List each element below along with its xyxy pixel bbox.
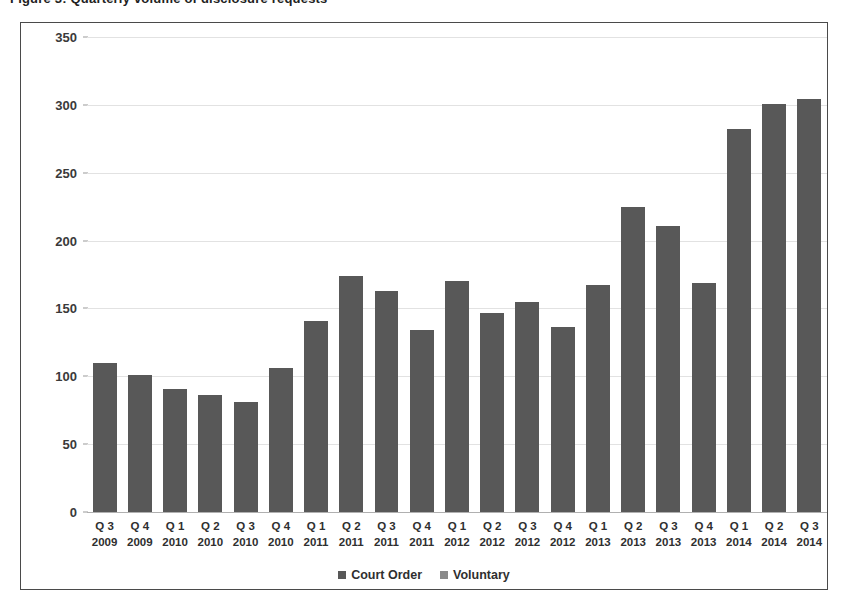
bar[interactable]: [269, 368, 293, 512]
x-axis-year: 2012: [439, 534, 474, 550]
y-axis: 050100150200250300350: [31, 37, 77, 512]
bar-series-group: [87, 37, 827, 512]
x-axis-year: 2011: [334, 534, 369, 550]
x-axis-quarter: Q 3: [651, 518, 686, 534]
x-axis-year: 2013: [580, 534, 615, 550]
bar-slot: [651, 37, 686, 512]
x-axis-year: 2010: [157, 534, 192, 550]
bar[interactable]: [198, 395, 222, 512]
x-axis-quarter: Q 4: [545, 518, 580, 534]
bar-slot: [545, 37, 580, 512]
x-axis-tick-label: Q 22013: [616, 518, 651, 550]
x-axis-tick-label: Q 42013: [686, 518, 721, 550]
x-axis-tick-label: Q 32009: [87, 518, 122, 550]
bar[interactable]: [410, 330, 434, 512]
x-axis-quarter: Q 3: [369, 518, 404, 534]
x-axis-tick-label: Q 12014: [721, 518, 756, 550]
x-axis-year: 2012: [545, 534, 580, 550]
bar-slot: [122, 37, 157, 512]
bar[interactable]: [480, 313, 504, 513]
x-axis-tick-label: Q 22011: [334, 518, 369, 550]
x-axis-tick-label: Q 12013: [580, 518, 615, 550]
bar[interactable]: [234, 402, 258, 512]
x-axis-year: 2010: [193, 534, 228, 550]
legend-label: Voluntary: [453, 568, 510, 582]
bar[interactable]: [128, 375, 152, 512]
bar-slot: [157, 37, 192, 512]
gridline: [87, 512, 827, 513]
bar[interactable]: [375, 291, 399, 512]
x-axis-year: 2013: [616, 534, 651, 550]
bar-slot: [475, 37, 510, 512]
legend-entry[interactable]: Voluntary: [440, 568, 510, 582]
x-axis-quarter: Q 1: [157, 518, 192, 534]
x-axis-year: 2014: [792, 534, 827, 550]
x-axis-tick-label: Q 42011: [404, 518, 439, 550]
bar-slot: [757, 37, 792, 512]
bar-slot: [439, 37, 474, 512]
x-axis-year: 2010: [263, 534, 298, 550]
bar[interactable]: [797, 99, 821, 512]
x-axis-year: 2011: [298, 534, 333, 550]
bar[interactable]: [515, 302, 539, 512]
bar[interactable]: [727, 129, 751, 512]
y-axis-tick-label: 300: [55, 97, 77, 112]
y-axis-tick-label: 100: [55, 369, 77, 384]
x-axis-quarter: Q 1: [580, 518, 615, 534]
bar[interactable]: [586, 285, 610, 512]
y-axis-tick-label: 0: [70, 505, 77, 520]
bar[interactable]: [339, 276, 363, 512]
x-axis-tick-label: Q 12011: [298, 518, 333, 550]
x-axis-quarter: Q 2: [757, 518, 792, 534]
bar[interactable]: [163, 389, 187, 513]
bar-slot: [580, 37, 615, 512]
x-axis-quarter: Q 4: [263, 518, 298, 534]
bar-chart: 050100150200250300350 Q 32009Q 42009Q 12…: [21, 23, 827, 589]
x-axis-quarter: Q 2: [616, 518, 651, 534]
legend-label: Court Order: [351, 568, 422, 582]
cut-off-caption-text: Figure 3: Quarterly volume of disclosure…: [10, 0, 328, 6]
bar[interactable]: [445, 281, 469, 512]
x-axis-tick-label: Q 42012: [545, 518, 580, 550]
x-axis-tick-label: Q 32014: [792, 518, 827, 550]
bar[interactable]: [304, 321, 328, 512]
bar-slot: [298, 37, 333, 512]
x-axis-year: 2012: [475, 534, 510, 550]
x-axis-tick-label: Q 32013: [651, 518, 686, 550]
x-axis-quarter: Q 4: [404, 518, 439, 534]
x-axis-year: 2013: [686, 534, 721, 550]
bar-slot: [193, 37, 228, 512]
x-axis-quarter: Q 2: [475, 518, 510, 534]
y-axis-tick-label: 250: [55, 165, 77, 180]
legend-entry[interactable]: Court Order: [338, 568, 422, 582]
bar-slot: [334, 37, 369, 512]
x-axis-year: 2011: [369, 534, 404, 550]
x-axis-quarter: Q 1: [298, 518, 333, 534]
x-axis-year: 2011: [404, 534, 439, 550]
y-axis-tick-label: 150: [55, 301, 77, 316]
bar[interactable]: [551, 327, 575, 512]
x-axis-tick-label: Q 12012: [439, 518, 474, 550]
x-axis-quarter: Q 2: [193, 518, 228, 534]
x-axis-quarter: Q 3: [792, 518, 827, 534]
bar[interactable]: [621, 207, 645, 512]
x-axis-tick-label: Q 42009: [122, 518, 157, 550]
y-axis-tick-label: 200: [55, 233, 77, 248]
bar-slot: [404, 37, 439, 512]
x-axis-tick-label: Q 22010: [193, 518, 228, 550]
plot-area: [87, 37, 827, 512]
bar[interactable]: [762, 104, 786, 513]
x-axis-year: 2009: [122, 534, 157, 550]
x-axis-quarter: Q 1: [721, 518, 756, 534]
x-axis-quarter: Q 1: [439, 518, 474, 534]
x-axis-year: 2010: [228, 534, 263, 550]
bar-slot: [792, 37, 827, 512]
x-axis-tick-label: Q 32012: [510, 518, 545, 550]
x-axis-year: 2014: [721, 534, 756, 550]
bar[interactable]: [93, 363, 117, 512]
bar[interactable]: [656, 226, 680, 512]
x-axis-tick-label: Q 32011: [369, 518, 404, 550]
x-axis-year: 2013: [651, 534, 686, 550]
bar-slot: [510, 37, 545, 512]
bar[interactable]: [692, 283, 716, 512]
